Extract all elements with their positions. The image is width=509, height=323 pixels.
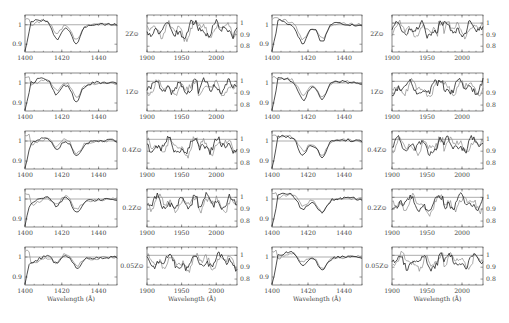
y-tick-label: 0.9 — [486, 31, 496, 38]
y-tick-label: 0.8 — [486, 217, 496, 224]
y-tick-label: 0.9 — [240, 205, 250, 212]
x-tick-label: 1950 — [419, 229, 435, 236]
x-tick-label: 1400 — [264, 113, 280, 120]
x-tick-label: 1440 — [336, 54, 352, 61]
y-tick-label: 0.8 — [486, 159, 496, 166]
spectrum-panel-r1-c1: 1400142014400.91 — [12, 15, 117, 61]
comparison-spectrum — [272, 18, 362, 40]
y-tick-label: 0.9 — [240, 147, 250, 154]
y-tick-label: 0.9 — [486, 89, 496, 96]
y-tick-label: 0.9 — [12, 157, 22, 164]
model-spectrum — [25, 255, 117, 284]
y-tick-label: 0.9 — [259, 215, 269, 222]
spectrum-panel-r2-c3: 1400142014400.91 — [259, 73, 362, 120]
y-tick-label: 1 — [18, 253, 22, 260]
x-tick-label: 1440 — [91, 171, 107, 178]
spectrum-panel-r4-c4: 1900195020000.80.91 — [384, 189, 496, 236]
model-spectrum — [272, 135, 362, 168]
x-tick-label: 1900 — [384, 54, 400, 61]
metallicity-label: 0.2Z⊙ — [367, 204, 386, 211]
y-tick-label: 1 — [486, 251, 490, 258]
x-tick-label: 1900 — [139, 54, 155, 61]
metallicity-label: 1Z⊙ — [370, 88, 383, 95]
comparison-spectrum — [147, 137, 237, 159]
y-tick-label: 0.8 — [486, 42, 496, 49]
spectra-figure: 1400142014400.911900195020000.80.9114001… — [0, 0, 509, 323]
y-tick-label: 0.9 — [240, 31, 250, 38]
model-spectrum — [272, 78, 362, 110]
x-tick-label: 2000 — [454, 229, 470, 236]
spectrum-panel-r4-c2: 1900195020000.80.91 — [139, 189, 250, 236]
x-tick-label: 2000 — [454, 287, 470, 294]
spectrum-panel-r1-c4: 1900195020000.80.91 — [384, 15, 496, 61]
y-tick-label: 0.9 — [240, 89, 250, 96]
y-tick-label: 1 — [486, 135, 490, 142]
x-tick-label: 1900 — [139, 287, 155, 294]
x-axis-title: Wavelength (Å) — [168, 295, 216, 303]
x-tick-label: 1440 — [336, 171, 352, 178]
x-tick-label: 2000 — [208, 113, 224, 120]
y-tick-label: 1 — [240, 19, 244, 26]
metallicity-label: 0.05Z⊙ — [365, 262, 388, 269]
y-tick-label: 0.9 — [12, 99, 22, 106]
x-tick-label: 1950 — [174, 287, 190, 294]
x-axis-title: Wavelength (Å) — [293, 295, 341, 303]
comparison-spectrum — [25, 134, 117, 154]
x-tick-label: 1400 — [264, 229, 280, 236]
x-tick-label: 1420 — [54, 229, 70, 236]
spectrum-panel-r2-c2: 1900195020000.80.91 — [139, 73, 250, 120]
x-tick-label: 2000 — [454, 113, 470, 120]
x-tick-label: 1950 — [174, 113, 190, 120]
metallicity-label: 1Z⊙ — [125, 88, 138, 95]
x-tick-label: 1440 — [336, 287, 352, 294]
model-spectrum — [272, 20, 362, 52]
y-tick-label: 0.9 — [240, 263, 250, 270]
y-tick-label: 1 — [486, 77, 490, 84]
x-tick-label: 1440 — [91, 287, 107, 294]
y-tick-label: 0.9 — [12, 215, 22, 222]
x-tick-label: 1420 — [300, 171, 316, 178]
x-tick-label: 1420 — [300, 229, 316, 236]
model-spectrum — [25, 138, 117, 168]
x-tick-label: 1900 — [139, 171, 155, 178]
x-tick-label: 1440 — [91, 113, 107, 120]
comparison-spectrum — [25, 19, 117, 40]
x-tick-label: 1420 — [300, 113, 316, 120]
x-axis-title: Wavelength (Å) — [414, 295, 462, 303]
y-tick-label: 0.9 — [12, 273, 22, 280]
x-tick-label: 1900 — [384, 287, 400, 294]
y-tick-label: 1 — [18, 137, 22, 144]
model-spectrum — [25, 19, 117, 51]
y-tick-label: 0.8 — [240, 42, 250, 49]
x-tick-label: 1950 — [419, 113, 435, 120]
spectrum-panel-r3-c1: 1400142014400.91 — [12, 131, 117, 178]
y-tick-label: 1 — [18, 195, 22, 202]
x-tick-label: 1900 — [384, 113, 400, 120]
spectrum-panel-r5-c2: 1900195020000.80.91 — [139, 247, 250, 294]
model-spectrum — [147, 78, 237, 95]
metallicity-label: 0.4Z⊙ — [367, 146, 386, 153]
x-tick-label: 2000 — [208, 287, 224, 294]
model-spectrum — [392, 136, 483, 156]
spectrum-panel-r3-c3: 1400142014400.91 — [259, 131, 362, 178]
metallicity-label: 2Z⊙ — [370, 30, 383, 37]
x-tick-label: 1900 — [139, 113, 155, 120]
y-tick-label: 0.8 — [486, 275, 496, 282]
metallicity-label: 2Z⊙ — [125, 30, 138, 37]
x-tick-label: 1400 — [264, 287, 280, 294]
y-tick-label: 1 — [240, 193, 244, 200]
y-tick-label: 1 — [486, 193, 490, 200]
spectrum-panel-r5-c4: 1900195020000.80.91 — [384, 247, 496, 294]
x-tick-label: 2000 — [454, 171, 470, 178]
x-tick-label: 2000 — [208, 54, 224, 61]
y-tick-label: 1 — [18, 79, 22, 86]
x-tick-label: 1420 — [54, 287, 70, 294]
y-tick-label: 0.9 — [486, 205, 496, 212]
y-tick-label: 0.9 — [486, 147, 496, 154]
spectrum-panel-r3-c2: 1900195020000.80.91 — [139, 131, 250, 178]
y-tick-label: 1 — [265, 137, 269, 144]
x-tick-label: 1400 — [17, 229, 33, 236]
spectrum-panel-r4-c1: 1400142014400.91 — [12, 189, 117, 236]
model-spectrum — [272, 252, 362, 284]
x-tick-label: 1900 — [384, 229, 400, 236]
